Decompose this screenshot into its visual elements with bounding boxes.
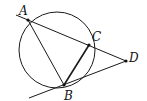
point-a bbox=[26, 18, 29, 21]
label-d: D bbox=[128, 51, 139, 65]
point-d bbox=[124, 59, 127, 62]
point-b bbox=[62, 83, 65, 86]
tangent-line-bd bbox=[29, 61, 126, 98]
chord-ab bbox=[28, 20, 64, 85]
label-a: A bbox=[18, 4, 28, 18]
point-c bbox=[87, 43, 90, 46]
chord-bc bbox=[64, 45, 89, 85]
secant-line-ad bbox=[16, 15, 126, 61]
label-c: C bbox=[92, 30, 101, 44]
label-b: B bbox=[63, 89, 73, 101]
geometry-diagram: A B C D bbox=[0, 0, 147, 101]
